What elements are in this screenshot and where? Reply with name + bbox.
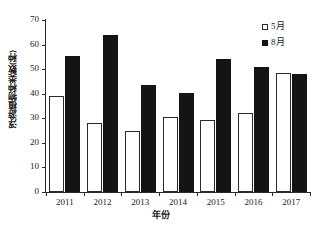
bar-2015-may — [200, 120, 215, 192]
x-axis-tick-label: 2011 — [46, 197, 84, 208]
bar-chart: 浮游植物种类数(种) 010203040506070 2011201220132… — [0, 0, 322, 234]
bar-2011-aug — [65, 56, 80, 192]
bar-2012-aug — [103, 35, 118, 192]
y-axis-tick-label: 70 — [30, 14, 39, 25]
bar-2013-may — [125, 131, 140, 192]
x-axis-tick-label: 2012 — [84, 197, 122, 208]
y-axis-tick-label: 10 — [30, 161, 39, 172]
y-axis-title: 浮游植物种类数(种) — [6, 50, 20, 128]
x-axis-tick-label: 2015 — [197, 197, 235, 208]
bar-2017-aug — [292, 74, 307, 192]
bar-2011-may — [49, 96, 64, 192]
y-axis-tick-label: 60 — [30, 39, 39, 50]
x-axis-tick-label: 2013 — [121, 197, 159, 208]
y-axis-tick-label: 50 — [30, 63, 39, 74]
bar-2012-may — [87, 123, 102, 192]
bar-2014-aug — [179, 93, 194, 193]
legend-item-label: 5月 — [271, 20, 285, 33]
x-axis-title: 年份 — [0, 210, 322, 221]
legend-item-label: 8月 — [271, 36, 285, 49]
x-axis-tick-label: 2017 — [272, 197, 310, 208]
x-axis-line — [45, 192, 311, 193]
x-axis-tick-mark — [121, 192, 122, 196]
legend-item-may: 5月 — [262, 20, 285, 33]
legend-swatch-icon — [262, 40, 268, 46]
bar-2017-may — [276, 73, 291, 192]
y-axis-tick-label: 40 — [30, 88, 39, 99]
x-axis-tick-label: 2014 — [159, 197, 197, 208]
y-axis-tick-label: 30 — [30, 112, 39, 123]
bar-2013-aug — [141, 85, 156, 192]
bar-2014-may — [163, 117, 178, 192]
legend-item-aug: 8月 — [262, 36, 285, 49]
x-axis-tick-mark — [159, 192, 160, 196]
x-axis-tick-mark — [235, 192, 236, 196]
x-axis-tick-mark — [310, 192, 311, 196]
x-axis-tick-mark — [197, 192, 198, 196]
chart-legend: 5月8月 — [262, 20, 285, 52]
x-axis-tick-mark — [272, 192, 273, 196]
y-axis-tick-label: 20 — [30, 137, 39, 148]
x-axis-tick-mark — [46, 192, 47, 196]
bar-2016-aug — [254, 67, 269, 192]
x-axis-tick-mark — [84, 192, 85, 196]
bar-2016-may — [238, 113, 253, 192]
y-axis-tick-label: 0 — [35, 186, 40, 197]
legend-swatch-icon — [262, 24, 268, 30]
x-axis-tick-label: 2016 — [235, 197, 273, 208]
bar-2015-aug — [216, 59, 231, 192]
